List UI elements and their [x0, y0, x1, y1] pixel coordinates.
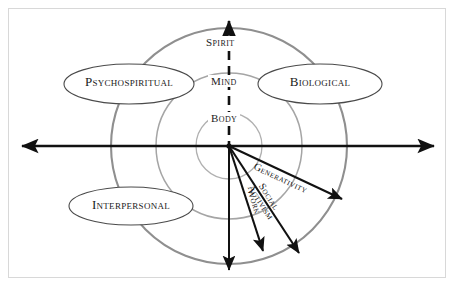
origin-point — [226, 143, 231, 148]
label-psychospiritual: Psychospiritual — [64, 74, 194, 90]
diagram-canvas: Psychospiritual Biological Interpersonal… — [0, 0, 456, 288]
label-interpersonal: Interpersonal — [69, 197, 193, 213]
label-mind: Mind — [208, 75, 240, 87]
label-spirit: Spirit — [203, 36, 238, 48]
label-body: Body — [208, 112, 240, 124]
vector-arrows — [229, 146, 342, 253]
label-biological: Biological — [258, 74, 382, 90]
